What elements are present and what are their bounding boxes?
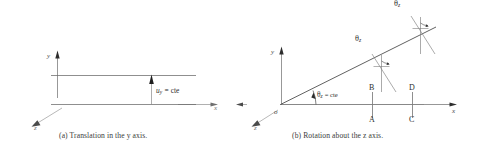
panel-a-x-axis-label: x — [214, 104, 217, 112]
translation-subscript: y — [160, 89, 162, 95]
origin-angle-subscript: z — [321, 93, 323, 99]
panel-b-point-a-label: A — [369, 115, 375, 124]
panel-b-graphics — [236, 16, 457, 127]
panel-a-y-axis-label: y — [47, 52, 50, 60]
panel-b-x-axis-arrow — [424, 102, 457, 106]
panel-a-z-axis-label: z — [34, 124, 37, 132]
angle-marker-1-subscript: z — [359, 37, 361, 43]
panel-a-translation-label: uy= cte — [156, 86, 179, 95]
panel-b-z-axis-label: z — [254, 124, 257, 132]
panel-a-translation-arrow — [149, 75, 154, 105]
panel-b-point-d-label: D — [409, 83, 415, 92]
panel-b-angle-marker-2-label: θz — [394, 0, 400, 8]
panel-b-point-c-label: C — [409, 115, 414, 124]
panel-b-origin-label: o — [274, 108, 278, 116]
panel-b-y-axis — [279, 47, 283, 105]
panel-a-y-axis — [55, 51, 59, 99]
angle-marker-2-subscript: z — [398, 2, 400, 8]
panel-b-angle-marker-1-label: θz — [355, 34, 361, 43]
panel-b-left-axis-stub — [236, 103, 247, 107]
panel-b-angle-marker-2 — [411, 16, 435, 54]
panel-b-y-axis-label: y — [271, 48, 274, 56]
panel-b-point-b-label: B — [369, 83, 374, 92]
origin-angle-relation: = cte — [325, 91, 338, 98]
panel-b-caption: (b) Rotation about the z axis. — [292, 131, 383, 140]
panel-b-origin-angle-label: θz= cte — [317, 90, 338, 99]
panel-b-angle-marker-1 — [372, 54, 396, 92]
panel-b-x-axis-label: x — [452, 107, 455, 115]
translation-relation: = cte — [165, 86, 180, 95]
panel-a-caption: (a) Translation in the y axis. — [59, 131, 147, 140]
panel-a-graphics — [32, 51, 219, 127]
